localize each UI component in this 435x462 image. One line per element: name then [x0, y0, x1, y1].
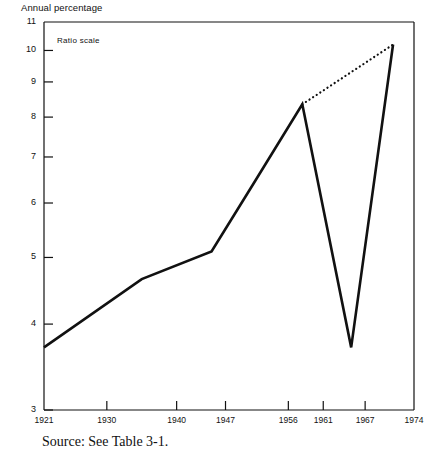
- y-tick-label: 7: [14, 151, 36, 161]
- y-tick-label: 6: [14, 197, 36, 207]
- plot-frame: [44, 22, 414, 410]
- x-axis-ticks: [107, 401, 365, 410]
- y-tick-label: 5: [14, 251, 36, 261]
- x-tick-label: 1974: [394, 415, 434, 425]
- y-tick-label: 4: [14, 318, 36, 328]
- x-tick-label: 1921: [24, 415, 64, 425]
- y-tick-label: 3: [14, 404, 36, 414]
- y-tick-label: 11: [14, 16, 36, 26]
- source-note: Source: See Table 3-1.: [42, 434, 168, 450]
- y-axis-ticks: [44, 50, 53, 410]
- y-tick-label: 10: [14, 44, 36, 54]
- chart-plot-area: [0, 0, 435, 462]
- chart-figure: Annual percentage Ratio scale 3456789101…: [0, 0, 435, 462]
- x-tick-label: 1940: [157, 415, 197, 425]
- data-series-layer: [44, 45, 393, 348]
- x-tick-label: 1930: [87, 415, 127, 425]
- x-tick-label: 1967: [345, 415, 385, 425]
- data-line-trend-projection: [302, 45, 393, 105]
- data-line-interest-rate: [44, 45, 393, 348]
- y-tick-label: 8: [14, 111, 36, 121]
- x-tick-label: 1961: [303, 415, 343, 425]
- x-tick-label: 1947: [206, 415, 246, 425]
- y-tick-label: 9: [14, 76, 36, 86]
